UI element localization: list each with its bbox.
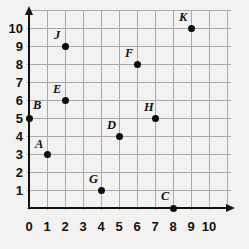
data-point-k[interactable] <box>188 25 195 32</box>
gridline-horizontal <box>27 118 230 119</box>
gridline-horizontal <box>27 190 230 191</box>
data-point-f[interactable] <box>134 61 141 68</box>
x-axis-line <box>28 207 226 209</box>
point-label-a: A <box>35 138 43 151</box>
x-tick-label: 0 <box>25 220 32 233</box>
y-axis-arrow-icon <box>25 6 33 15</box>
gridline-vertical <box>65 10 66 210</box>
point-label-b: B <box>33 99 41 112</box>
y-tick-label: 10 <box>2 22 23 35</box>
x-tick-label: 4 <box>97 220 104 233</box>
y-tick-label: 6 <box>2 94 23 107</box>
gridline-horizontal <box>27 154 230 155</box>
point-label-j: J <box>54 29 60 42</box>
y-tick-label: 1 <box>2 184 23 197</box>
grid <box>0 0 249 249</box>
gridline-horizontal <box>27 100 230 101</box>
point-label-d: D <box>107 119 116 132</box>
data-point-d[interactable] <box>116 133 123 140</box>
x-tick-label: 7 <box>151 220 158 233</box>
x-axis-arrow-icon <box>226 204 235 212</box>
x-tick-label: 2 <box>61 220 68 233</box>
gridline-vertical <box>137 10 138 210</box>
y-tick-label: 3 <box>2 148 23 161</box>
x-tick-label: 9 <box>187 220 194 233</box>
x-tick-label: 6 <box>133 220 140 233</box>
y-tick-label: 2 <box>2 166 23 179</box>
point-label-g: G <box>89 173 98 186</box>
gridline-vertical <box>227 10 228 210</box>
coordinate-plane: 01234567891012345678910 ABCDEFGHJK <box>0 0 249 249</box>
gridline-horizontal <box>27 10 230 11</box>
point-label-k: K <box>179 11 187 24</box>
gridline-vertical <box>173 10 174 210</box>
data-point-e[interactable] <box>62 97 69 104</box>
point-label-c: C <box>161 190 169 203</box>
data-point-b[interactable] <box>26 115 33 122</box>
y-axis-line <box>28 14 30 208</box>
gridline-horizontal <box>27 64 230 65</box>
y-tick-label: 7 <box>2 76 23 89</box>
gridline-horizontal <box>27 136 230 137</box>
y-tick-label: 4 <box>2 130 23 143</box>
y-tick-label: 8 <box>2 58 23 71</box>
data-point-g[interactable] <box>98 187 105 194</box>
gridline-vertical <box>119 10 120 210</box>
gridline-vertical <box>191 10 192 210</box>
point-label-h: H <box>144 101 154 114</box>
x-tick-label: 10 <box>202 220 216 233</box>
x-tick-label: 3 <box>79 220 86 233</box>
y-tick-label: 9 <box>2 40 23 53</box>
y-tick-label: 5 <box>2 112 23 125</box>
gridline-horizontal <box>27 172 230 173</box>
gridline-vertical <box>101 10 102 210</box>
data-point-a[interactable] <box>44 151 51 158</box>
point-label-f: F <box>125 47 133 60</box>
data-point-c[interactable] <box>170 205 177 212</box>
data-point-h[interactable] <box>152 115 159 122</box>
point-label-e: E <box>53 83 61 96</box>
gridline-vertical <box>155 10 156 210</box>
gridline-vertical <box>47 10 48 210</box>
x-tick-label: 5 <box>115 220 122 233</box>
gridline-vertical <box>83 10 84 210</box>
x-tick-label: 1 <box>43 220 50 233</box>
data-point-j[interactable] <box>62 43 69 50</box>
x-tick-label: 8 <box>169 220 176 233</box>
gridline-vertical <box>209 10 210 210</box>
